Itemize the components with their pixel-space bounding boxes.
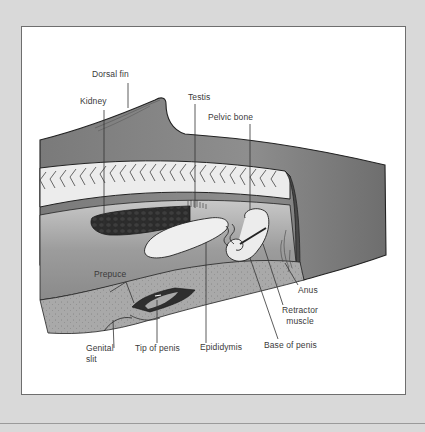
label-genital-slit-line1: Genital: [86, 343, 114, 354]
dolphin-anatomy-illustration: [0, 0, 425, 432]
label-kidney: Kidney: [80, 96, 107, 107]
label-retractor-muscle-line1: Retractor: [280, 305, 320, 316]
label-prepuce: Prepuce: [94, 269, 126, 280]
bottom-divider: [0, 423, 425, 424]
label-epididymis: Epididymis: [200, 342, 242, 353]
label-pelvic-bone: Pelvic bone: [208, 112, 253, 123]
label-genital-slit: Genital slit: [86, 343, 114, 365]
label-retractor-muscle: Retractor muscle: [280, 305, 320, 327]
label-retractor-muscle-line2: muscle: [280, 316, 320, 327]
label-testis: Testis: [188, 92, 210, 103]
label-base-of-penis: Base of penis: [264, 340, 317, 351]
label-anus: Anus: [298, 285, 318, 296]
label-genital-slit-line2: slit: [86, 354, 114, 365]
label-tip-of-penis: Tip of penis: [135, 343, 180, 354]
label-dorsal-fin: Dorsal fin: [92, 69, 129, 80]
